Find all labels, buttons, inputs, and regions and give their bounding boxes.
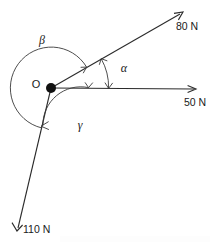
angle-arc-alpha-path xyxy=(101,59,108,89)
vector-80n-shaft xyxy=(51,14,180,88)
angle-label-alpha: α xyxy=(121,61,128,75)
origin-dot xyxy=(46,83,56,93)
vector-80n-arrowhead xyxy=(174,12,183,20)
force-vector-figure: O 80 N 50 N 110 N α β γ xyxy=(0,0,216,246)
angle-arc-gamma-head-end xyxy=(41,122,49,130)
vector-80n xyxy=(51,12,183,88)
vector-50n-shaft xyxy=(51,88,194,89)
vector-110n xyxy=(12,88,51,231)
vector-110n-arrowhead xyxy=(12,223,23,231)
angle-arc-alpha xyxy=(99,59,112,89)
force-label-50n: 50 N xyxy=(184,96,206,108)
vector-diagram-canvas: O 80 N 50 N 110 N α β γ xyxy=(0,0,216,246)
page-scan-artifact xyxy=(60,236,210,242)
origin-label: O xyxy=(32,78,41,90)
angle-label-beta: β xyxy=(38,33,45,47)
vector-50n xyxy=(51,86,196,93)
force-label-110n: 110 N xyxy=(23,223,50,235)
force-label-80n: 80 N xyxy=(176,20,198,32)
angle-label-gamma: γ xyxy=(78,118,83,132)
